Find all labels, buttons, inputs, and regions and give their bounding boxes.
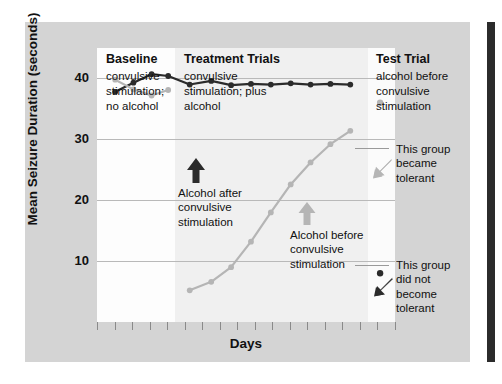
x-tick — [325, 322, 326, 330]
x-tick — [360, 322, 361, 330]
panel-heading-baseline: Baseline convulsivestimulation;no alcoho… — [106, 52, 170, 114]
panel-title-treatment: Treatment Trials — [184, 52, 294, 66]
panel-subtitle-baseline: convulsivestimulation;no alcohol — [106, 69, 170, 113]
up-arrow-icon-alcohol-after — [185, 156, 207, 184]
y-tick-label-20: 30 — [63, 131, 89, 146]
x-tick — [220, 322, 221, 330]
x-tick — [185, 322, 186, 330]
annotation-not-tolerant: This groupdid notbecometolerant — [396, 258, 472, 316]
x-tick — [307, 322, 308, 330]
annotation-alcohol-after: Alcohol afterconvulsivestimulation — [178, 186, 274, 229]
panel-heading-test: Test Trial alcohol beforeconvulsivestimu… — [376, 52, 468, 114]
panel-title-test: Test Trial — [376, 52, 468, 66]
x-tick — [115, 322, 116, 330]
series-light-ramp-point — [228, 264, 234, 270]
x-tick — [395, 322, 396, 330]
series-light-ramp-point — [288, 181, 294, 187]
x-axis-title: Days — [97, 336, 395, 351]
y-tick-label-30: 20 — [63, 192, 89, 207]
series-light-ramp-point — [248, 239, 254, 245]
series-light-ramp-point — [208, 279, 214, 285]
figure-root: Mean Seizure Duration (seconds) 10 20 30… — [0, 0, 502, 384]
series-light-ramp-point — [187, 287, 193, 293]
panel-subtitle-test: alcohol beforeconvulsivestimulation — [376, 69, 468, 113]
panel-heading-treatment: Treatment Trials convulsivestimulation; … — [184, 52, 294, 114]
x-tick — [97, 322, 98, 330]
panel-subtitle-treatment: convulsivestimulation; plusalcohol — [184, 69, 294, 113]
series-dark-point — [347, 82, 353, 88]
up-arrow-icon-alcohol-before — [297, 200, 317, 226]
x-tick — [342, 322, 343, 330]
x-tick — [377, 322, 378, 330]
callout-line-not-tolerant — [355, 265, 389, 266]
x-tick — [272, 322, 273, 330]
x-tick — [202, 322, 203, 330]
annotation-became-tolerant: This groupbecametolerant — [396, 142, 470, 185]
y-tick-label-10: 40 — [63, 70, 89, 85]
right-edge-bar — [487, 22, 495, 362]
x-tick — [167, 322, 168, 330]
x-tick — [255, 322, 256, 330]
panel-title-baseline: Baseline — [106, 52, 170, 66]
series-dark-point — [308, 82, 314, 88]
x-axis-ticks — [97, 322, 395, 331]
series-light-ramp-point — [347, 128, 353, 134]
series-light-ramp-point — [308, 160, 314, 166]
x-tick — [150, 322, 151, 330]
y-tick-label-40: 10 — [63, 253, 89, 268]
series-dark-point — [328, 81, 334, 87]
down-left-arrow-icon-became-tolerant — [371, 158, 395, 182]
callout-line-became-tolerant — [355, 148, 389, 149]
x-tick — [237, 322, 238, 330]
x-tick — [132, 322, 133, 330]
x-tick — [290, 322, 291, 330]
down-left-arrow-icon-not-tolerant — [372, 276, 396, 300]
y-axis-title: Mean Seizure Duration (seconds) — [25, 26, 40, 226]
series-light-ramp-point — [328, 141, 334, 147]
